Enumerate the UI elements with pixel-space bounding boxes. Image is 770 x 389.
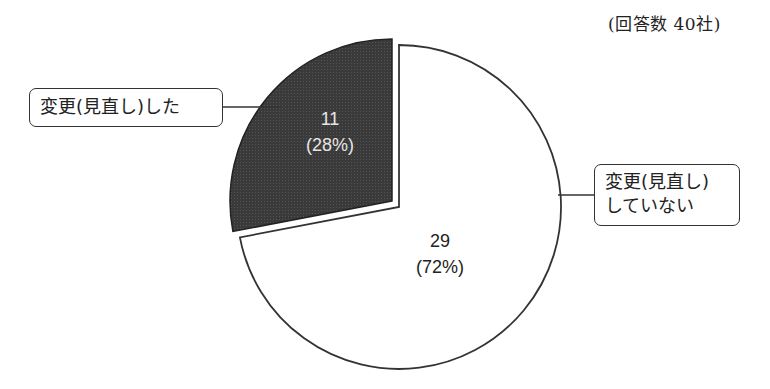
slice-unchanged-label: 29 (72%) <box>390 228 490 280</box>
slice-unchanged-count: 29 <box>390 228 490 254</box>
slice-changed-count: 11 <box>270 106 390 132</box>
callout-unchanged: 変更(見直し) していない <box>594 164 740 226</box>
callout-changed: 変更(見直し)した <box>29 88 223 127</box>
slice-unchanged-percent: (72%) <box>390 254 490 280</box>
slice-changed-label: 11 (28%) <box>270 106 390 158</box>
callout-unchanged-line2: していない <box>605 194 729 218</box>
callout-changed-text: 変更(見直し)した <box>40 96 180 117</box>
slice-changed-percent: (28%) <box>270 132 390 158</box>
callout-unchanged-line1: 変更(見直し) <box>605 170 729 194</box>
